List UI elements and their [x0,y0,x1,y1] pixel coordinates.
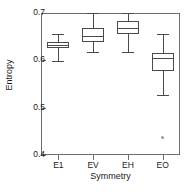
whisker-cap-upper [87,13,99,14]
whisker-cap-lower [52,61,64,62]
whisker-cap-upper [122,13,134,14]
whisker-lower [163,71,164,96]
median-line [117,28,139,29]
whisker-upper [58,34,59,42]
x-axis-tick-label: EV [87,160,98,170]
x-axis-tick-label: E1 [53,160,63,170]
median-line [152,58,174,59]
whisker-cap-lower [122,52,134,53]
x-axis-tick-label: EH [122,160,134,170]
y-axis-tick-label: 0.5 [33,103,45,112]
y-axis-tick-label: 0.7 [33,8,45,17]
x-axis-label: Symmetry [41,171,180,181]
whisker-cap-lower [157,95,169,96]
whisker-upper [128,13,129,21]
median-line [82,36,104,37]
box-iqr [152,53,174,71]
box-plot-figure: 0.40.50.60.7 E1EVEHEO Entropy Symmetry [0,0,193,194]
y-axis-tick-label: 0.6 [33,55,45,64]
whisker-lower [58,48,59,62]
whisker-lower [93,42,94,52]
whisker-upper [93,13,94,28]
whisker-lower [128,34,129,52]
median-line [47,45,69,46]
y-axis-tick-label: 0.4 [33,150,45,159]
whisker-cap-lower [87,52,99,53]
whisker-upper [163,34,164,53]
whisker-cap-upper [52,34,64,35]
y-axis-label: Entropy [4,45,14,105]
x-axis-tick-label: EO [156,160,168,170]
whisker-cap-upper [157,34,169,35]
